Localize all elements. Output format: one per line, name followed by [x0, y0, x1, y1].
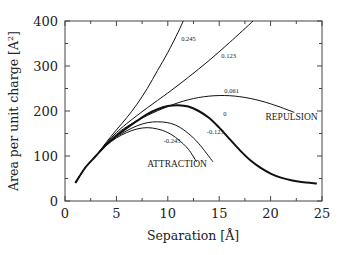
y-tick-label: 100: [33, 149, 58, 164]
curve-label: 0.123: [221, 52, 236, 59]
x-tick-label: 10: [160, 206, 177, 221]
plot-frame: [65, 21, 322, 201]
curve--0.123: [75, 122, 213, 183]
x-tick-label: 0: [61, 206, 69, 221]
x-tick-label: 25: [314, 206, 331, 221]
x-tick-label: 5: [112, 206, 120, 221]
curve-label: -0.123: [207, 128, 224, 135]
x-tick-label: 15: [211, 206, 228, 221]
curve-label: 0.061: [224, 87, 239, 94]
y-tick-label: 200: [33, 104, 58, 119]
y-axis-title: Area per unit charge [A2]: [6, 31, 21, 192]
y-tick-label: 300: [33, 59, 58, 74]
curve-label: 0.245: [181, 35, 196, 42]
annotation-repulsion: REPULSION: [265, 112, 317, 122]
curve-label: 0: [223, 110, 226, 117]
y-tick-label: 400: [33, 14, 58, 29]
x-axis-title: Separation [Å]: [147, 228, 239, 243]
curve-labels: 0.2450.1230.0610-0.123-0.245: [164, 35, 239, 143]
chart: 0510152025 0100200300400 0.2450.1230.061…: [0, 0, 340, 255]
x-tick-label: 20: [262, 206, 279, 221]
plot-border: [65, 21, 322, 201]
curve-label: -0.245: [164, 137, 181, 144]
annotation-attraction: ATTRACTION: [147, 159, 207, 169]
y-tick-label: 0: [50, 194, 58, 209]
